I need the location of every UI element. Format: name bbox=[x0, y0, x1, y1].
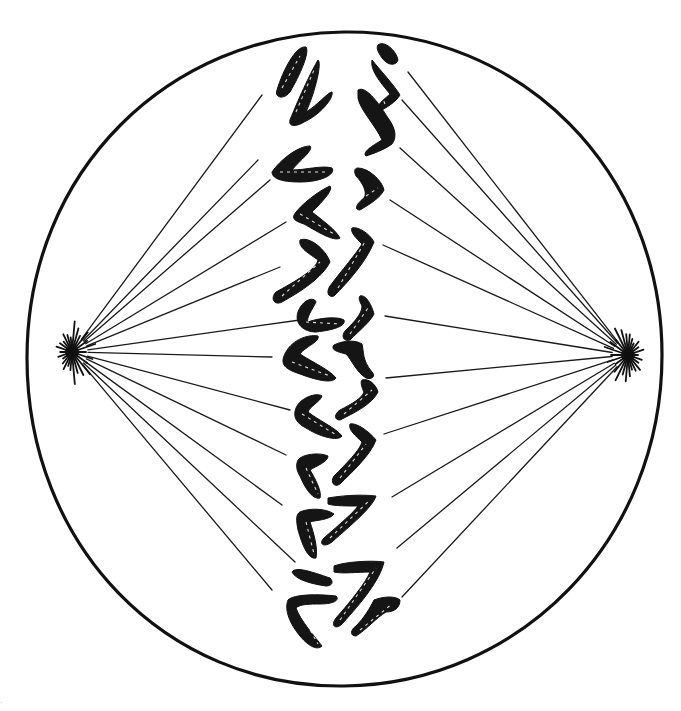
chromosome bbox=[333, 341, 374, 378]
spindle-fiber bbox=[84, 363, 295, 562]
spindle-fiber bbox=[408, 72, 618, 342]
chromosome bbox=[287, 595, 337, 648]
chromosome bbox=[336, 380, 379, 420]
spindle-fiber bbox=[85, 361, 282, 505]
spindle-fiber bbox=[83, 160, 258, 341]
spindle-fiber bbox=[88, 352, 272, 357]
spindle-fiber bbox=[84, 180, 270, 342]
cell-membrane bbox=[27, 32, 662, 686]
chromosome bbox=[276, 47, 306, 97]
chromosome bbox=[272, 146, 333, 182]
spindle-fibers-right bbox=[383, 72, 618, 597]
chromosomes bbox=[272, 44, 400, 648]
spindle-fibers-left bbox=[82, 95, 301, 590]
chromosome bbox=[355, 168, 384, 210]
chromosome bbox=[292, 570, 332, 586]
spindle-fiber bbox=[88, 320, 300, 350]
chromosome bbox=[295, 395, 342, 439]
spindle-fiber bbox=[385, 316, 612, 353]
spindle-fiber bbox=[397, 365, 616, 548]
spindle-fiber bbox=[82, 95, 263, 339]
spindle-fiber bbox=[88, 356, 291, 410]
chromosome bbox=[377, 44, 398, 65]
spindle-fiber bbox=[86, 359, 286, 455]
chromosome bbox=[273, 239, 330, 303]
chromosome bbox=[297, 454, 328, 498]
spindle-fiber bbox=[86, 222, 286, 344]
spindle-fiber bbox=[390, 200, 615, 346]
cell-drawing bbox=[0, 0, 681, 711]
spindle-fiber bbox=[402, 367, 617, 597]
chromosome bbox=[283, 336, 336, 381]
chromosome bbox=[294, 186, 340, 239]
chromosome bbox=[343, 296, 374, 341]
spindle-fiber bbox=[400, 148, 616, 344]
chromosome bbox=[297, 299, 344, 332]
spindle-fiber bbox=[383, 245, 613, 348]
corner-mark: · bbox=[0, 698, 3, 707]
spindle-fiber bbox=[402, 100, 617, 343]
spindle-fiber bbox=[386, 357, 612, 379]
spindle-fiber bbox=[392, 363, 614, 497]
